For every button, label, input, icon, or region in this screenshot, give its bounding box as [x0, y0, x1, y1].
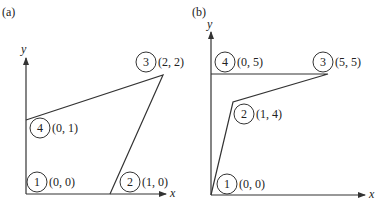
- svg-text:2: 2: [241, 107, 247, 121]
- svg-text:(0, 1): (0, 1): [52, 121, 78, 135]
- y-axis-label-a: y: [20, 42, 27, 56]
- svg-text:3: 3: [143, 55, 149, 69]
- node-2-b: 2 (1, 4): [234, 104, 282, 124]
- svg-text:4: 4: [222, 55, 228, 69]
- node-2-a: 2 (1, 0): [120, 172, 168, 192]
- node-1-a: 1 (0, 0): [27, 172, 75, 192]
- svg-text:(5, 5): (5, 5): [335, 55, 361, 69]
- y-axis-label-b: y: [206, 17, 213, 31]
- svg-text:(0, 0): (0, 0): [239, 177, 265, 191]
- svg-text:2: 2: [127, 175, 133, 189]
- panel-b: (b) y x 4 (0, 5) 3 (5, 5) 2 (1, 4) 1 (0,…: [192, 5, 375, 201]
- node-4-b: 4 (0, 5): [215, 52, 263, 72]
- panel-a: (a) y x 1 (0, 0) 2 (1, 0) 3 (2, 2) 4 (0,…: [2, 5, 184, 200]
- svg-text:1: 1: [34, 175, 40, 189]
- panel-a-label: (a): [2, 5, 15, 19]
- node-1-b: 1 (0, 0): [217, 174, 265, 194]
- svg-text:3: 3: [320, 55, 326, 69]
- panel-b-label: (b): [192, 5, 206, 19]
- node-3-a: 3 (2, 2): [136, 52, 184, 72]
- node-4-a: 4 (0, 1): [30, 118, 78, 138]
- node-3-b: 3 (5, 5): [313, 52, 361, 72]
- x-axis-label-b: x: [368, 187, 375, 201]
- svg-text:(2, 2): (2, 2): [158, 55, 184, 69]
- svg-text:(0, 5): (0, 5): [237, 55, 263, 69]
- figure: (a) y x 1 (0, 0) 2 (1, 0) 3 (2, 2) 4 (0,…: [0, 0, 386, 210]
- svg-text:4: 4: [37, 121, 43, 135]
- svg-text:1: 1: [224, 177, 230, 191]
- svg-text:(1, 4): (1, 4): [256, 107, 282, 121]
- x-axis-label-a: x: [169, 186, 176, 200]
- svg-text:(1, 0): (1, 0): [142, 175, 168, 189]
- svg-text:(0, 0): (0, 0): [49, 175, 75, 189]
